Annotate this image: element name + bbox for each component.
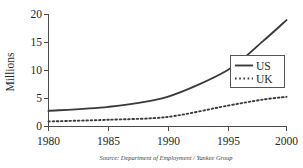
y-tick-label-20: 20	[31, 8, 43, 20]
y-tick-label-15: 15	[31, 36, 43, 48]
y-tick-label-0: 0	[36, 120, 42, 132]
x-tick-label-1995: 1995	[217, 135, 240, 147]
x-tick-label-1980: 1980	[37, 135, 60, 147]
legend-label-uk: UK	[256, 73, 273, 85]
x-tick-label-1985: 1985	[97, 135, 120, 147]
y-tick-label-10: 10	[31, 64, 43, 76]
y-tick-label-5: 5	[36, 92, 42, 104]
source-caption: Source: Department of Employment / Yanke…	[100, 154, 233, 161]
line-chart-figure: Millions 0 5 10 15 20 1980 1985 1990 199…	[0, 0, 303, 168]
x-tick-label-1990: 1990	[157, 135, 180, 147]
x-tick-label-2000: 2000	[275, 135, 298, 147]
y-axis-label: Millions	[4, 52, 16, 92]
legend-label-us: US	[256, 60, 271, 72]
chart-legend: US UK	[231, 56, 285, 88]
chart-canvas: Millions 0 5 10 15 20 1980 1985 1990 199…	[0, 0, 303, 168]
